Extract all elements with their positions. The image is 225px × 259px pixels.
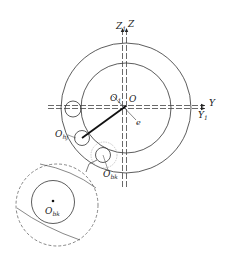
ball-obk-halo (91, 142, 117, 168)
detail-callout-connector (86, 160, 97, 172)
label-y: Y (209, 98, 216, 108)
label-y1: Y1 (198, 110, 208, 121)
ball-left (65, 101, 81, 117)
radius-line-to-ohj (82, 106, 126, 138)
diagram-canvas: Z1 Z Y Y1 O1 O e Ohj Obk Obk (0, 0, 225, 259)
detail-ball-center-dot (52, 200, 55, 203)
detail-dashed-circle (16, 164, 98, 246)
label-o: O (129, 94, 137, 104)
label-obk: Obk (103, 169, 118, 180)
label-z1: Z1 (115, 21, 126, 32)
label-ohj: Ohj (55, 129, 68, 141)
outer-raceway-circle (61, 43, 191, 173)
label-o1: O1 (110, 93, 121, 104)
inner-raceway-circle (81, 63, 171, 153)
label-obk-detail: Obk (45, 206, 60, 217)
label-e: e (136, 118, 141, 127)
label-z: Z (127, 19, 135, 29)
